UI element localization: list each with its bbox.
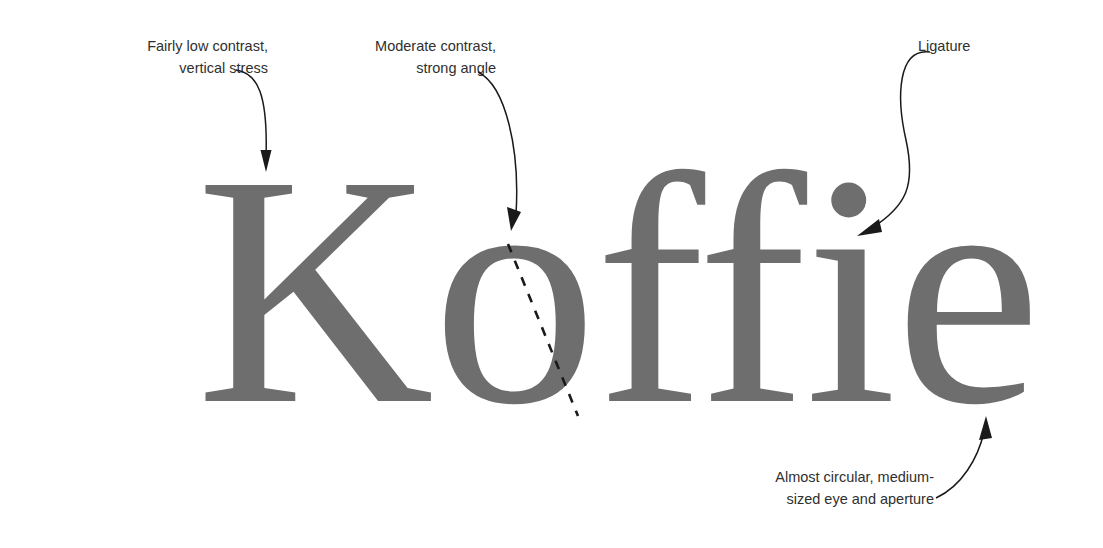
annotation-contrast-line2: vertical stress bbox=[58, 57, 268, 79]
annotation-angle: Moderate contrast, strong angle bbox=[306, 35, 496, 79]
typography-diagram: Koffie Fairly low contrast, vertical str… bbox=[0, 0, 1103, 548]
annotation-aperture-line1: Almost circular, medium- bbox=[702, 466, 934, 488]
annotation-contrast: Fairly low contrast, vertical stress bbox=[58, 35, 268, 79]
annotation-ligature-line1: Ligature bbox=[918, 35, 1068, 57]
specimen-word: Koffie bbox=[196, 125, 1066, 455]
annotation-angle-line1: Moderate contrast, bbox=[306, 35, 496, 57]
annotation-angle-line2: strong angle bbox=[306, 57, 496, 79]
annotation-contrast-line1: Fairly low contrast, bbox=[58, 35, 268, 57]
annotation-aperture-line2: sized eye and aperture bbox=[702, 488, 934, 510]
annotation-aperture: Almost circular, medium- sized eye and a… bbox=[702, 466, 934, 510]
annotation-ligature: Ligature bbox=[918, 35, 1068, 57]
